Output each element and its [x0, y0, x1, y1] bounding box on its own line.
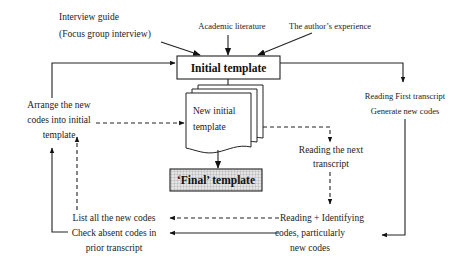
new-codes-label: new codes: [290, 243, 330, 253]
interview-guide-label: Interview guide: [59, 12, 119, 22]
arrange-label: Arrange the new: [27, 100, 90, 110]
template-label: template: [43, 130, 76, 140]
reading-first-label: Reading First transcript: [365, 91, 446, 101]
new-initial-template-doc: New initial template: [186, 85, 263, 153]
academic-literature-label: Academic literature: [198, 21, 265, 31]
arrow-arrange-to-initial: [52, 63, 175, 98]
author-experience-label: The author’s experience: [289, 21, 371, 31]
focus-group-label: (Focus group interview): [59, 29, 151, 40]
new-template-label: template: [193, 122, 226, 132]
arrow-check-to-arrange: [52, 148, 68, 232]
new-initial-label: New initial: [193, 106, 236, 116]
codes-into-label: codes into initial: [27, 115, 91, 125]
template-flow-diagram: Interview guide (Focus group interview) …: [0, 0, 462, 267]
arrow-interview-to-initial: [161, 42, 200, 55]
arrow-experience-to-initial: [258, 33, 312, 55]
final-template-box: ‘Final’ template: [170, 169, 262, 191]
generate-codes-label: Generate new codes: [371, 106, 439, 116]
reading-identifying-label: Reading + Identifying: [280, 213, 364, 223]
final-template-label: ‘Final’ template: [177, 174, 255, 187]
arrow-initial-to-reading-first: [280, 63, 403, 82]
arrow-new-to-reading-next: [263, 127, 330, 142]
reading-next-label: Reading the next: [299, 145, 364, 155]
initial-template-box: Initial template: [177, 56, 280, 79]
check-absent-label: Check absent codes in: [72, 228, 157, 238]
arrow-reading-first-to-identifying: [382, 119, 405, 235]
transcript-label: transcript: [313, 159, 349, 169]
initial-template-label: Initial template: [191, 62, 267, 75]
prior-transcript-label: prior transcript: [86, 243, 143, 253]
input-interview-guide: Interview guide (Focus group interview): [59, 12, 151, 40]
list-new-codes-label: List all the new codes: [73, 213, 156, 223]
codes-particularly-label: codes, particularly: [275, 228, 345, 238]
